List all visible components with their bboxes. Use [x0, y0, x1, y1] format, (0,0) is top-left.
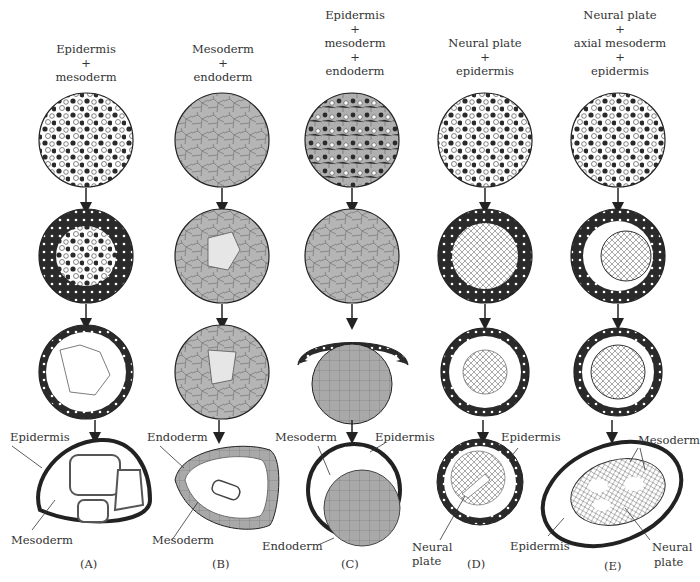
column-d-stages	[437, 93, 532, 540]
label-d-epidermis: Epidermis	[501, 431, 561, 444]
label-b-endoderm: Endoderm	[147, 431, 208, 444]
label-c-mesoderm: Mesoderm	[275, 431, 337, 444]
column-e-stages	[527, 93, 696, 565]
panel-label-d: (D)	[467, 557, 485, 571]
label-b-mesoderm: Mesoderm	[152, 534, 214, 547]
panel-label-e: (E)	[604, 559, 621, 573]
label-e-neural: Neural	[652, 541, 692, 554]
label-d-neural: Neural	[412, 541, 452, 554]
column-b-stages	[160, 93, 279, 540]
label-c-endoderm: Endoderm	[262, 540, 323, 553]
panel-label-c: (C)	[341, 557, 359, 571]
panel-label-b: (B)	[212, 557, 229, 571]
label-c-epidermis: Epidermis	[375, 431, 435, 444]
panel-label-a: (A)	[80, 557, 97, 571]
column-c-stages	[298, 93, 408, 546]
label-e-mesoderm: Mesoderm	[638, 434, 700, 447]
label-d-plate: plate	[412, 555, 441, 568]
label-a-epidermis: Epidermis	[10, 431, 70, 444]
label-e-plate: plate	[654, 556, 683, 569]
label-a-mesoderm: Mesoderm	[11, 534, 73, 547]
column-a-stages	[12, 93, 150, 530]
label-e-epidermis: Epidermis	[510, 540, 570, 553]
